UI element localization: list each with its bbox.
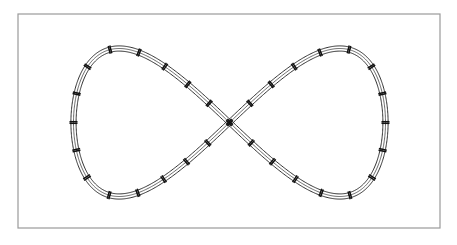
track-layout-svg <box>0 0 457 245</box>
diagram-canvas <box>0 0 457 245</box>
